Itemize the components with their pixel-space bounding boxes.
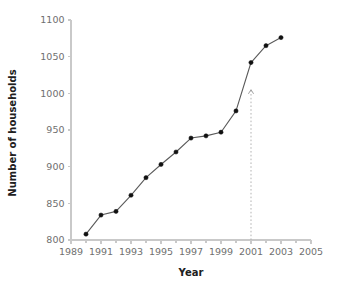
y-tick-label: 950 [46, 124, 64, 135]
y-tick-label: 850 [46, 198, 64, 209]
x-tick-label: 2005 [299, 246, 323, 257]
x-tick-label: 1999 [209, 246, 233, 257]
x-tick-label: 1997 [179, 246, 203, 257]
y-tick-label: 800 [46, 234, 64, 245]
data-point-marker [219, 130, 223, 134]
data-point-marker [144, 176, 148, 180]
y-tick-label: 900 [46, 161, 64, 172]
data-point-marker [129, 193, 133, 197]
line-chart: 800850900950100010501100 198919911993199… [0, 0, 340, 287]
x-tick-label: 1991 [89, 246, 113, 257]
x-tick-label: 2003 [269, 246, 293, 257]
y-axis-title: Number of households [7, 69, 18, 196]
chart-container: 800850900950100010501100 198919911993199… [0, 0, 340, 287]
data-point-marker [189, 136, 193, 140]
data-point-marker [264, 44, 268, 48]
x-tick-label: 2001 [239, 246, 263, 257]
data-point-marker [159, 162, 163, 166]
data-point-marker [204, 134, 208, 138]
y-tick-label: 1100 [40, 14, 64, 25]
y-tick-label: 1000 [40, 88, 64, 99]
data-point-marker [279, 36, 283, 40]
data-point-marker [174, 150, 178, 154]
data-point-marker [234, 109, 238, 113]
x-axis-title: Year [178, 267, 204, 278]
x-tick-label: 1993 [119, 246, 143, 257]
data-point-marker [99, 213, 103, 217]
y-tick-label: 1050 [40, 51, 64, 62]
data-point-marker [249, 60, 253, 64]
data-point-marker [114, 209, 118, 213]
data-point-marker [84, 232, 88, 236]
x-tick-label: 1995 [149, 246, 173, 257]
x-tick-label: 1989 [59, 246, 83, 257]
